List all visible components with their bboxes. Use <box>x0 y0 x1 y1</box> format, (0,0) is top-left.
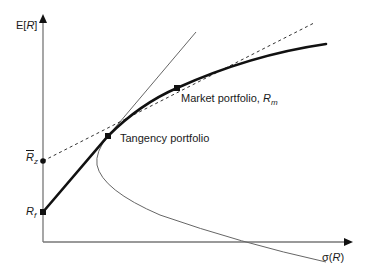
zero-beta-point <box>40 158 46 164</box>
market-point <box>174 85 180 91</box>
minimum-variance-frontier <box>97 32 326 262</box>
x-axis-arrow-icon <box>344 238 353 246</box>
market-label: Market portfolio, Rm <box>181 93 278 107</box>
tangency-point <box>105 133 111 139</box>
efficient-frontier <box>43 44 326 212</box>
y-axis-label: E[R] <box>16 20 37 31</box>
x-axis-label: σ(R) <box>322 252 344 263</box>
risk-free-point <box>40 209 46 215</box>
tangency-label: Tangency portfolio <box>120 133 209 144</box>
risk-free-label: Rf <box>26 206 36 220</box>
zero-beta-label: Rz <box>26 152 38 166</box>
y-axis-arrow-icon <box>39 14 47 23</box>
